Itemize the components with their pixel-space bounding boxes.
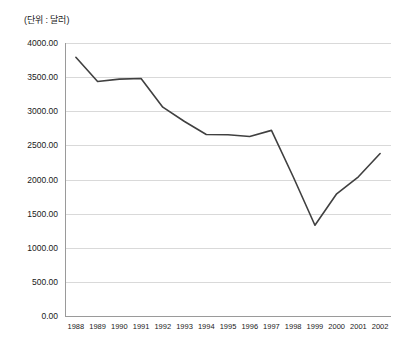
x-axis-tick-label: 1993 [176,322,193,331]
y-axis-tick-label: 4000.00 [0,38,58,48]
y-axis-tick-label: 2500.00 [0,140,58,150]
x-axis-tick-label: 1999 [307,322,324,331]
chart-svg [0,0,402,341]
x-axis-tick-label: 1997 [263,322,280,331]
x-axis-tick-label: 2001 [350,322,367,331]
y-axis-tick-label: 1500.00 [0,209,58,219]
y-axis-tick-label: 2000.00 [0,175,58,185]
x-axis-tick-label: 1991 [133,322,150,331]
x-axis-tick-label: 1989 [89,322,106,331]
y-axis-tick-label: 0.00 [0,311,58,321]
y-axis-tick-label: 3000.00 [0,106,58,116]
x-axis-tick-label: 2000 [328,322,345,331]
x-axis-tick-label: 1990 [111,322,128,331]
x-axis-tick-label: 2002 [372,322,389,331]
x-axis-tick-label: 1988 [68,322,85,331]
x-axis-tick-label: 1996 [241,322,258,331]
x-axis-tick-label: 1994 [198,322,215,331]
chart-container: (단위 : 달러) 0.00500.001000.001500.002000.0… [0,0,402,341]
y-axis-tick-label: 1000.00 [0,243,58,253]
x-axis-tick-label: 1992 [154,322,171,331]
data-series-line [76,57,380,225]
x-axis-tick-label: 1995 [220,322,237,331]
y-axis-tick-label: 500.00 [0,277,58,287]
y-axis-tick-label: 3500.00 [0,72,58,82]
x-axis-tick-label: 1998 [285,322,302,331]
plot-area: 0.00500.001000.001500.002000.002500.0030… [0,0,402,341]
